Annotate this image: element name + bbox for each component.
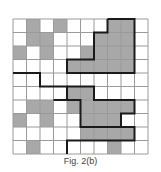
shaded-cell xyxy=(94,60,108,74)
shaded-cell xyxy=(94,114,108,128)
empty-cell xyxy=(13,100,27,114)
empty-cell xyxy=(94,87,108,101)
empty-cell xyxy=(94,73,108,87)
figure-caption: Fig. 2(b) xyxy=(0,156,161,166)
empty-cell xyxy=(67,114,81,128)
empty-cell xyxy=(81,141,95,155)
shaded-cell xyxy=(121,60,135,74)
shaded-cell xyxy=(27,141,41,155)
empty-cell xyxy=(13,33,27,47)
shaded-cell xyxy=(108,114,122,128)
empty-cell xyxy=(67,73,81,87)
empty-cell xyxy=(67,141,81,155)
empty-cell xyxy=(13,127,27,141)
shaded-cell xyxy=(81,127,95,141)
empty-cell xyxy=(54,60,68,74)
empty-cell xyxy=(54,141,68,155)
shaded-cell xyxy=(108,141,122,155)
empty-cell xyxy=(121,73,135,87)
empty-cell xyxy=(40,60,54,74)
empty-cell xyxy=(81,33,95,47)
empty-cell xyxy=(121,114,135,128)
empty-cell xyxy=(108,73,122,87)
shaded-cell xyxy=(121,19,135,33)
empty-cell xyxy=(27,127,41,141)
shaded-cell xyxy=(94,100,108,114)
shaded-cell xyxy=(27,100,41,114)
grid-figure xyxy=(0,0,161,172)
empty-cell xyxy=(40,73,54,87)
shaded-cell xyxy=(108,19,122,33)
empty-cell xyxy=(54,46,68,60)
empty-cell xyxy=(135,46,149,60)
empty-cell xyxy=(67,127,81,141)
shaded-cell xyxy=(13,46,27,60)
empty-cell xyxy=(135,127,149,141)
empty-cell xyxy=(135,100,149,114)
empty-cell xyxy=(135,73,149,87)
shaded-cell xyxy=(81,100,95,114)
empty-cell xyxy=(94,19,108,33)
empty-cell xyxy=(54,127,68,141)
empty-cell xyxy=(81,19,95,33)
empty-cell xyxy=(27,114,41,128)
shaded-cell xyxy=(94,127,108,141)
shaded-cell xyxy=(108,100,122,114)
shaded-cell xyxy=(121,33,135,47)
shaded-cell xyxy=(81,87,95,101)
shaded-cell xyxy=(94,33,108,47)
empty-cell xyxy=(40,127,54,141)
empty-cell xyxy=(27,87,41,101)
shaded-cell xyxy=(108,46,122,60)
shaded-cell xyxy=(81,46,95,60)
shaded-cell xyxy=(121,100,135,114)
empty-cell xyxy=(81,73,95,87)
empty-cell xyxy=(27,46,41,60)
empty-cell xyxy=(13,19,27,33)
empty-cell xyxy=(121,87,135,101)
shaded-cell xyxy=(108,127,122,141)
shaded-cell xyxy=(67,87,81,101)
shaded-cell xyxy=(108,60,122,74)
shaded-cell xyxy=(54,19,68,33)
empty-cell xyxy=(121,141,135,155)
empty-cell xyxy=(67,19,81,33)
shaded-cell xyxy=(67,60,81,74)
shaded-cell xyxy=(40,100,54,114)
empty-cell xyxy=(13,73,27,87)
shaded-cell xyxy=(27,19,41,33)
shaded-cell xyxy=(40,33,54,47)
empty-cell xyxy=(13,141,27,155)
empty-cell xyxy=(67,46,81,60)
empty-cell xyxy=(40,141,54,155)
empty-cell xyxy=(67,33,81,47)
empty-cell xyxy=(135,33,149,47)
shaded-cell xyxy=(108,33,122,47)
shaded-cell xyxy=(81,60,95,74)
empty-cell xyxy=(135,87,149,101)
empty-cell xyxy=(40,19,54,33)
empty-cell xyxy=(27,73,41,87)
empty-cell xyxy=(94,141,108,155)
empty-cell xyxy=(40,87,54,101)
empty-cell xyxy=(135,19,149,33)
empty-cell xyxy=(135,141,149,155)
shaded-cell xyxy=(94,46,108,60)
empty-cell xyxy=(54,73,68,87)
empty-cell xyxy=(54,114,68,128)
shaded-cell xyxy=(67,100,81,114)
shaded-cell xyxy=(40,114,54,128)
empty-cell xyxy=(135,114,149,128)
shaded-cell xyxy=(40,46,54,60)
empty-cell xyxy=(27,60,41,74)
shaded-cell xyxy=(27,33,41,47)
shaded-cell xyxy=(13,114,27,128)
shaded-cell xyxy=(121,46,135,60)
empty-cell xyxy=(13,60,27,74)
empty-cell xyxy=(135,60,149,74)
shaded-cell xyxy=(121,127,135,141)
empty-cell xyxy=(54,100,68,114)
shaded-cell xyxy=(81,114,95,128)
empty-cell xyxy=(54,33,68,47)
empty-cell xyxy=(54,87,68,101)
